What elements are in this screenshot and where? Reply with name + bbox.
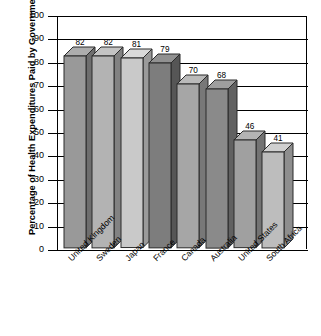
bar[interactable] (149, 65, 171, 250)
y-tick-label-text: 20 (14, 198, 44, 207)
bar-value-label: 68 (211, 71, 233, 80)
bar-chart: Percentage of Health Expenditures Paid b… (0, 0, 321, 336)
bar-value-label: 82 (97, 38, 119, 47)
y-tick-mark (48, 86, 57, 87)
bar-value-label: 41 (267, 134, 289, 143)
bar-front-face (234, 140, 256, 248)
y-tick-label: 50 (0, 128, 44, 137)
y-tick-label-text: 70 (14, 81, 44, 90)
bar-value-label: 81 (126, 40, 148, 49)
y-tick-label: 80 (0, 58, 44, 67)
bar[interactable] (177, 86, 199, 250)
bar[interactable] (64, 58, 86, 250)
y-tick-label: 20 (0, 198, 44, 207)
y-tick-label: 10 (0, 222, 44, 231)
y-tick-label: 60 (0, 105, 44, 114)
y-tick-label: 90 (0, 34, 44, 43)
y-tick-label: 100 (0, 11, 44, 20)
plot-area: 8282817970684641 (57, 16, 308, 250)
y-tick-mark (48, 16, 57, 17)
bar-value-label: 82 (69, 38, 91, 47)
bar-front-face (149, 63, 171, 248)
bar[interactable] (234, 142, 256, 250)
y-tick-mark (48, 39, 57, 40)
y-tick-label: 30 (0, 175, 44, 184)
bar-value-label: 70 (182, 66, 204, 75)
y-tick-label-text: 90 (14, 34, 44, 43)
bar-value-label: 79 (154, 45, 176, 54)
y-tick-mark (48, 133, 57, 134)
bar[interactable] (206, 91, 228, 250)
y-tick-label-text: 80 (14, 58, 44, 67)
bar[interactable] (121, 60, 143, 250)
y-tick-label-text: 60 (14, 105, 44, 114)
y-tick-label: 40 (0, 151, 44, 160)
bar-front-face (121, 58, 143, 248)
y-tick-label-text: 50 (14, 128, 44, 137)
y-tick-label-text: 100 (14, 11, 44, 20)
bar-front-face (64, 56, 86, 248)
y-axis-line (57, 16, 58, 251)
y-tick-mark (48, 250, 57, 251)
y-tick-label: 70 (0, 81, 44, 90)
y-tick-label-text: 30 (14, 175, 44, 184)
y-tick-mark (48, 203, 57, 204)
bar-value-label: 46 (239, 122, 261, 131)
y-tick-mark (48, 63, 57, 64)
y-tick-mark (48, 227, 57, 228)
y-tick-mark (48, 110, 57, 111)
y-tick-label-text: 40 (14, 151, 44, 160)
bar-front-face (206, 89, 228, 248)
gridline (57, 39, 308, 40)
y-tick-mark (48, 180, 57, 181)
y-tick-label-text: 0 (14, 245, 44, 254)
y-tick-label: 0 (0, 245, 44, 254)
y-tick-label-text: 10 (14, 222, 44, 231)
bar-front-face (177, 84, 199, 248)
y-tick-mark (48, 156, 57, 157)
